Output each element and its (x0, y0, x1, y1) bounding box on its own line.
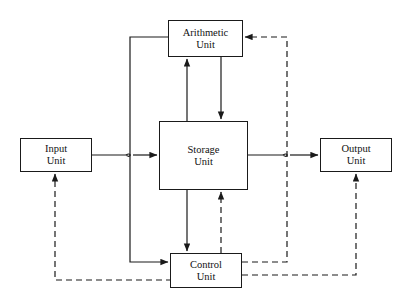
input-unit-label-line2: Unit (47, 155, 66, 167)
input-unit-label-line1: Input (45, 143, 67, 155)
output-unit-box: Output Unit (320, 138, 392, 172)
storage-unit-box: Storage Unit (159, 121, 248, 190)
block-diagram: Input Unit Arithmetic Unit Storage Unit … (0, 0, 407, 305)
output-unit-label-line2: Unit (347, 155, 366, 167)
arithmetic-unit-label-line1: Arithmetic (183, 27, 229, 39)
line-control-to-arithmetic (242, 37, 287, 262)
output-unit-label-line1: Output (341, 143, 370, 155)
arithmetic-unit-label-line2: Unit (196, 39, 215, 51)
storage-unit-label-line2: Unit (194, 156, 213, 168)
arithmetic-unit-box: Arithmetic Unit (168, 20, 243, 57)
control-unit-box: Control Unit (170, 253, 242, 288)
input-unit-box: Input Unit (20, 138, 92, 172)
control-unit-label-line2: Unit (197, 271, 216, 283)
storage-unit-label-line1: Storage (187, 144, 219, 156)
control-unit-label-line1: Control (190, 259, 222, 271)
line-control-to-output (242, 174, 356, 275)
